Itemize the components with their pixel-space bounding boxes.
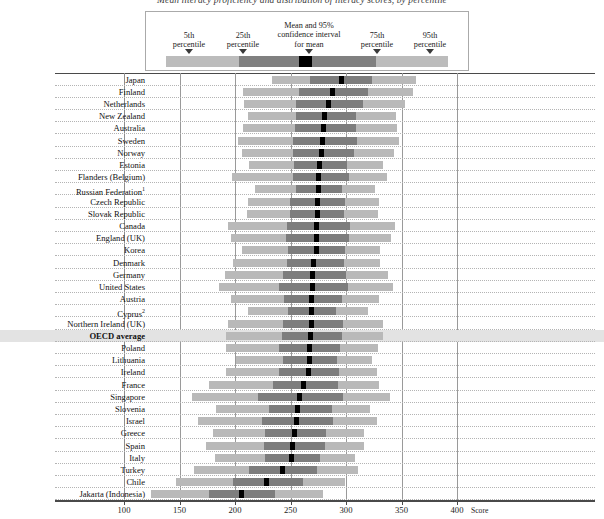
country-label: Israel <box>0 415 145 427</box>
bar-mean-marker <box>308 332 313 340</box>
table-row[interactable]: Turkey <box>0 464 604 476</box>
table-row[interactable]: Ireland <box>0 366 604 378</box>
country-label: Canada <box>0 220 145 232</box>
percentile-bar <box>249 161 382 169</box>
country-label: France <box>0 379 145 391</box>
table-row[interactable]: Germany <box>0 269 604 281</box>
percentile-bar <box>228 320 382 328</box>
table-row[interactable]: Greece <box>0 427 604 439</box>
table-row[interactable]: Sweden <box>0 135 604 147</box>
table-row[interactable]: Northern Ireland (UK) <box>0 318 604 330</box>
percentile-bar <box>247 210 378 218</box>
legend-caret-p5-icon <box>185 49 193 54</box>
table-row[interactable]: Lithuania <box>0 354 604 366</box>
footnote-marker: 2 <box>142 308 145 314</box>
table-row[interactable]: Slovenia <box>0 403 604 415</box>
table-row[interactable]: Russian Federation1 <box>0 183 604 195</box>
percentile-bar <box>238 137 399 145</box>
country-label: United States <box>0 281 145 293</box>
table-row[interactable]: United States <box>0 281 604 293</box>
bar-mean-marker <box>315 210 320 218</box>
percentile-bar <box>243 124 397 132</box>
x-tick-label-150: 150 <box>160 505 200 515</box>
table-row[interactable]: Flanders (Belgium) <box>0 171 604 183</box>
percentile-bar <box>236 356 371 364</box>
bar-mean-marker <box>310 283 315 291</box>
table-row[interactable]: Chile <box>0 476 604 488</box>
percentile-bar <box>248 112 396 120</box>
table-row[interactable]: Israel <box>0 415 604 427</box>
x-axis-unit-label: Score <box>471 506 488 515</box>
table-row[interactable]: Australia <box>0 122 604 134</box>
table-row[interactable]: New Zealand <box>0 110 604 122</box>
bar-mean-marker <box>307 356 312 364</box>
percentile-bar <box>242 246 381 254</box>
bar-mean-marker <box>239 490 244 498</box>
x-tick-label-100: 100 <box>104 505 144 515</box>
table-row[interactable]: Finland <box>0 86 604 98</box>
bar-mean-marker <box>297 393 302 401</box>
bar-mean-marker <box>330 88 335 96</box>
bar-mean-marker <box>316 173 321 181</box>
country-label: Austria <box>0 293 145 305</box>
bar-mean-marker <box>317 161 322 169</box>
table-row[interactable]: Denmark <box>0 257 604 269</box>
country-label: England (UK) <box>0 232 145 244</box>
chart-title: Mean literacy proficiency and distributi… <box>0 0 604 5</box>
bar-mean-marker <box>309 295 314 303</box>
bar-mean-marker <box>320 137 325 145</box>
country-label: Jakarta (Indonesia) <box>0 488 145 500</box>
country-label: Czech Republic <box>0 196 145 208</box>
table-row[interactable]: OECD average <box>0 330 604 342</box>
table-row[interactable]: Norway <box>0 147 604 159</box>
table-row[interactable]: Korea <box>0 244 604 256</box>
table-row[interactable]: Estonia <box>0 159 604 171</box>
table-row[interactable]: France <box>0 379 604 391</box>
country-label: Norway <box>0 147 145 159</box>
country-label: Finland <box>0 86 145 98</box>
bar-mean-marker <box>292 429 297 437</box>
bar-mean-marker <box>339 76 344 84</box>
country-label: Turkey <box>0 464 145 476</box>
table-row[interactable]: Japan <box>0 74 604 86</box>
percentile-bar <box>194 466 358 474</box>
bar-mean-marker <box>301 381 306 389</box>
table-row[interactable]: Netherlands <box>0 98 604 110</box>
bar-mean-marker <box>306 368 311 376</box>
table-row[interactable]: Jakarta (Indonesia) <box>0 488 604 500</box>
table-row[interactable]: England (UK) <box>0 232 604 244</box>
percentile-bar <box>243 88 413 96</box>
bar-mean-marker <box>315 198 320 206</box>
table-row[interactable]: Italy <box>0 452 604 464</box>
chart-root: Mean literacy proficiency and distributi… <box>0 0 604 519</box>
country-label: Singapore <box>0 391 145 403</box>
bar-mean-marker <box>307 344 312 352</box>
table-row[interactable]: Slovak Republic <box>0 208 604 220</box>
country-label: Denmark <box>0 257 145 269</box>
percentile-bar <box>206 442 364 450</box>
percentile-bar <box>248 198 379 206</box>
bar-mean-marker <box>295 405 300 413</box>
legend-p5-line1: 5th <box>184 31 194 40</box>
table-row[interactable]: Czech Republic <box>0 196 604 208</box>
bar-mean-marker <box>321 124 326 132</box>
x-tick-label-300: 300 <box>326 505 366 515</box>
percentile-bar <box>209 381 379 389</box>
table-row[interactable]: Canada <box>0 220 604 232</box>
table-row[interactable]: Austria <box>0 293 604 305</box>
x-tick-label-350: 350 <box>382 505 422 515</box>
country-label: Spain <box>0 440 145 452</box>
table-row[interactable]: Spain <box>0 440 604 452</box>
x-tick-label-200: 200 <box>215 505 255 515</box>
country-label: Italy <box>0 452 145 464</box>
bar-mean-marker <box>314 222 319 230</box>
country-label: Estonia <box>0 159 145 171</box>
bar-mean-marker <box>309 320 314 328</box>
bar-mean-marker <box>309 307 314 315</box>
table-row[interactable]: Singapore <box>0 391 604 403</box>
legend-caret-p95-icon <box>426 49 434 54</box>
percentile-bar <box>255 185 375 193</box>
table-row[interactable]: Poland <box>0 342 604 354</box>
table-row[interactable]: Cyprus2 <box>0 305 604 317</box>
country-label: Australia <box>0 122 145 134</box>
